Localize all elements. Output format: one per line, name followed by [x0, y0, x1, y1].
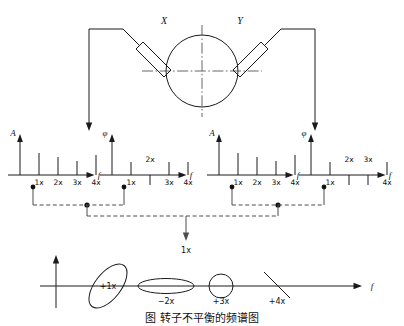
- y-amplitude-axis-y-label: A: [208, 128, 215, 138]
- x-amplitude-ticklabel-4x: 4x: [91, 178, 101, 187]
- x-amplitude-axis-vertical-arrowhead: [17, 134, 23, 142]
- y-amplitude-ticklabel-4x: 4x: [290, 178, 300, 187]
- dashed-connector-network: [31, 185, 327, 241]
- y-amplitude-ticklabel-1x: 1x: [233, 178, 243, 187]
- probe-x: [86, 29, 171, 131]
- x-phase-axis-y-label: φ: [103, 128, 108, 138]
- orbit-label-3: +3x: [213, 297, 230, 306]
- orbit-axis-vertical-arrowhead: [53, 255, 59, 264]
- figure-caption: 图 转子不平衡的频谱图: [0, 309, 404, 326]
- orbit-shape-4x: [264, 272, 290, 298]
- x-amplitude-ticklabel-3x: 3x: [72, 178, 82, 187]
- rotor-centerlines: [142, 25, 262, 117]
- y-amplitude-axis-vertical-arrowhead: [216, 134, 222, 142]
- probe-y: [233, 29, 318, 131]
- orbit-axis-horizontal-arrowhead: [354, 283, 363, 289]
- combine-label: 1x: [181, 246, 191, 255]
- orbit-plot: [40, 255, 362, 314]
- y-phase-ticklabel-4x: 4x: [382, 178, 392, 187]
- x-phase-ticklabel-3x: 3x: [164, 178, 174, 187]
- x-phase-ticklabel-1x: 1x: [126, 178, 136, 187]
- orbit-label-4: +4x: [269, 297, 286, 306]
- probe-y-body-edge-a: [233, 42, 261, 70]
- x-amplitude-axis-y-label: A: [9, 128, 16, 138]
- x-phase-ticklabel-2x: 2x: [145, 155, 155, 164]
- probe-y-arrowhead: [312, 123, 318, 132]
- probe-x-body-edge-b: [136, 49, 164, 77]
- orbit-axis-x-label: f: [371, 281, 375, 291]
- y-amplitude-ticklabel-3x: 3x: [271, 178, 281, 187]
- y-phase-axis-y-label: φ: [302, 128, 307, 138]
- y-phase-axis-vertical-arrowhead: [308, 134, 314, 142]
- probe-y-lead: [265, 29, 316, 124]
- probe-x-lead: [89, 29, 140, 124]
- rotor-assembly: [86, 25, 318, 131]
- orbit-label-1: +1x: [100, 282, 117, 291]
- x-amplitude-ticklabel-2x: 2x: [53, 178, 63, 187]
- x-phase-axis-vertical-arrowhead: [109, 134, 115, 142]
- probe-x-arrowhead: [86, 123, 92, 132]
- unbalance-spectrum-figure: Af1x2x3x4xφf1x2x3x4xAf1x2x3x4xφf1x2x3x4x…: [0, 0, 404, 326]
- probe-y-body-edge-b: [240, 49, 268, 77]
- y-phase-ticklabel-1x: 1x: [325, 178, 335, 187]
- probe-x-body-edge-a: [143, 42, 171, 70]
- x-amplitude-ticklabel-1x: 1x: [34, 178, 44, 187]
- x-phase-ticklabel-4x: 4x: [183, 178, 193, 187]
- figure-labels: Af1x2x3x4xφf1x2x3x4xAf1x2x3x4xφf1x2x3x4x…: [9, 15, 392, 306]
- combine-arrowhead: [183, 233, 189, 242]
- orbit-label-2: −2x: [158, 297, 175, 306]
- probe-x-label: X: [160, 15, 168, 26]
- y-amplitude-ticklabel-2x: 2x: [252, 178, 262, 187]
- y-phase-ticklabel-3x: 3x: [363, 155, 373, 164]
- probe-y-label: Y: [237, 15, 244, 26]
- y-phase-ticklabel-2x: 2x: [344, 155, 354, 164]
